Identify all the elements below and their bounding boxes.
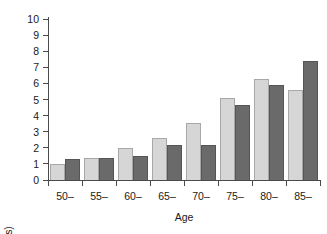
bar-dark bbox=[167, 145, 182, 180]
y-tick: 9 bbox=[0, 29, 48, 41]
x-tick-mark bbox=[218, 181, 219, 186]
bar-group bbox=[152, 19, 182, 180]
x-tick-mark bbox=[184, 181, 185, 186]
bar-dark bbox=[235, 105, 250, 180]
bar-light bbox=[254, 79, 269, 180]
y-tick: 2 bbox=[0, 142, 48, 154]
y-tick-label: 6 bbox=[33, 77, 39, 89]
x-tick-mark bbox=[320, 181, 321, 186]
y-tick-label: 8 bbox=[33, 45, 39, 57]
x-tick-label: 85– bbox=[280, 190, 326, 203]
y-tick-mark bbox=[43, 19, 48, 20]
y-tick-label: 2 bbox=[33, 142, 39, 154]
y-tick: 10 bbox=[0, 13, 48, 25]
y-tick-mark bbox=[43, 99, 48, 100]
y-tick-mark bbox=[43, 131, 48, 132]
y-tick-label: 4 bbox=[33, 110, 39, 122]
y-tick-mark bbox=[43, 51, 48, 52]
x-tick-mark bbox=[252, 181, 253, 186]
x-tick-mark bbox=[150, 181, 151, 186]
y-tick-label: 3 bbox=[33, 126, 39, 138]
bar-light bbox=[152, 138, 167, 180]
bar-dark bbox=[303, 61, 318, 180]
bar-dark bbox=[269, 85, 284, 180]
y-tick: 8 bbox=[0, 45, 48, 57]
y-tick-label: 10 bbox=[27, 13, 39, 25]
y-tick-mark bbox=[43, 115, 48, 116]
bar-dark bbox=[201, 145, 216, 180]
y-tick: 1 bbox=[0, 158, 48, 170]
bar-light bbox=[50, 164, 65, 180]
y-tick-label: 1 bbox=[33, 158, 39, 170]
x-tick-mark bbox=[116, 181, 117, 186]
bar-light bbox=[84, 158, 99, 180]
bar-group bbox=[50, 19, 80, 180]
bar-light bbox=[288, 90, 303, 180]
y-tick-label: 9 bbox=[33, 29, 39, 41]
bar-light bbox=[186, 123, 201, 180]
y-tick: 5 bbox=[0, 94, 48, 106]
y-tick: 3 bbox=[0, 126, 48, 138]
y-tick-label: 7 bbox=[33, 61, 39, 73]
bar-dark bbox=[99, 158, 114, 180]
bar-dark bbox=[133, 156, 148, 180]
y-tick: 6 bbox=[0, 77, 48, 89]
x-tick-mark bbox=[286, 181, 287, 186]
x-tick-mark bbox=[82, 181, 83, 186]
y-tick-mark bbox=[43, 163, 48, 164]
y-tick-mark bbox=[43, 83, 48, 84]
x-axis-title: Age bbox=[48, 211, 320, 224]
y-tick-label: 0 bbox=[33, 174, 39, 186]
y-tick-mark bbox=[43, 67, 48, 68]
y-tick-mark bbox=[43, 35, 48, 36]
y-axis-line bbox=[48, 17, 49, 182]
y-tick-mark bbox=[43, 147, 48, 148]
y-tick: 4 bbox=[0, 110, 48, 122]
bar-group bbox=[220, 19, 250, 180]
bar-group bbox=[118, 19, 148, 180]
bar-group bbox=[186, 19, 216, 180]
bar-group bbox=[254, 19, 284, 180]
bar-chart: Incidence (/1000 years) 012345678910 50–… bbox=[0, 0, 327, 234]
y-axis-title: Incidence (/1000 years) bbox=[0, 190, 16, 234]
y-tick: 0 bbox=[0, 174, 48, 186]
y-tick: 7 bbox=[0, 61, 48, 73]
x-tick-mark bbox=[48, 181, 49, 186]
bar-light bbox=[118, 148, 133, 180]
y-tick-label: 5 bbox=[33, 94, 39, 106]
bar-group bbox=[84, 19, 114, 180]
bar-group bbox=[288, 19, 318, 180]
bar-light bbox=[220, 98, 235, 180]
bar-dark bbox=[65, 159, 80, 180]
